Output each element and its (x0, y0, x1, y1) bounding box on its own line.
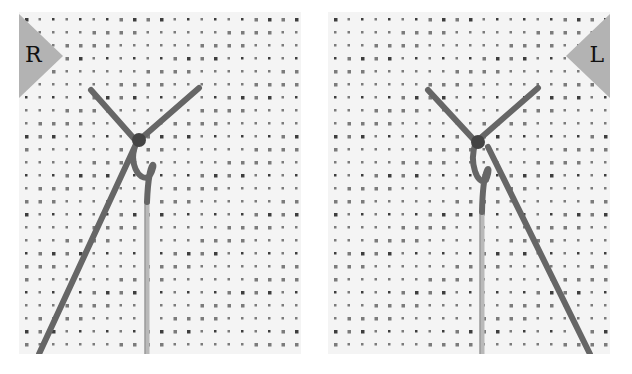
fabric-hole (375, 252, 379, 256)
fabric-hole (241, 31, 245, 35)
fabric-hole (442, 31, 446, 35)
fabric-hole (429, 252, 432, 255)
fabric-hole (187, 200, 191, 204)
left-hand-badge: L (566, 14, 610, 98)
fabric-hole (25, 213, 29, 217)
fabric-hole (591, 213, 595, 217)
fabric-hole (388, 291, 391, 294)
fabric-hole (79, 18, 82, 21)
fabric-hole (483, 96, 486, 99)
fabric-hole (295, 122, 298, 125)
fabric-hole (348, 83, 351, 86)
fabric-hole (241, 109, 245, 113)
fabric-hole (415, 200, 418, 203)
fabric-hole (537, 174, 541, 178)
fabric-hole (375, 317, 379, 321)
fabric-hole (106, 44, 110, 48)
fabric-hole (442, 18, 446, 22)
fabric-hole (469, 83, 473, 87)
fabric-hole (348, 109, 351, 112)
fabric-hole (402, 330, 405, 333)
fabric-hole (469, 330, 473, 334)
fabric-hole (469, 122, 472, 125)
fabric-hole (442, 239, 445, 242)
fabric-hole (160, 135, 164, 139)
fabric-hole (93, 109, 97, 113)
fabric-hole (106, 148, 109, 151)
fabric-hole (268, 135, 271, 138)
fabric-hole (201, 44, 205, 48)
fabric-hole (93, 278, 96, 281)
fabric-hole (160, 148, 164, 152)
fabric-hole (510, 278, 513, 281)
fabric-hole (25, 343, 29, 347)
fabric-hole (402, 109, 406, 113)
fabric-hole (469, 343, 473, 347)
fabric-hole (334, 317, 337, 320)
fabric-hole (282, 18, 286, 22)
fabric-hole (79, 148, 82, 151)
fabric-hole (510, 70, 513, 73)
fabric-hole (187, 135, 191, 139)
fabric-hole (79, 213, 82, 216)
fabric-hole (415, 70, 418, 73)
fabric-hole (214, 200, 217, 203)
fabric-hole (106, 317, 109, 320)
fabric-hole (79, 135, 82, 138)
fabric-hole (388, 343, 391, 346)
fabric-hole (201, 213, 204, 216)
fabric-hole (214, 304, 218, 308)
fabric-hole (388, 57, 392, 61)
fabric-hole (93, 174, 97, 178)
fabric-hole (483, 31, 486, 34)
fabric-hole (388, 122, 392, 126)
fabric-hole (66, 57, 70, 61)
fabric-hole (93, 343, 96, 346)
fabric-hole (187, 161, 190, 164)
fabric-hole (79, 70, 82, 73)
fabric-hole (429, 174, 432, 177)
fabric-hole (241, 96, 245, 100)
fabric-hole (550, 96, 554, 100)
fabric-hole (241, 70, 244, 73)
fabric-hole (201, 291, 204, 294)
fabric-hole (334, 291, 337, 294)
fabric-hole (241, 252, 244, 255)
fabric-hole (334, 96, 337, 99)
fabric-hole (160, 278, 164, 282)
fabric-hole (402, 252, 405, 255)
fabric-hole (295, 31, 298, 34)
fabric-hole (577, 343, 581, 347)
fabric-hole (255, 83, 259, 87)
fabric-hole (66, 96, 69, 99)
fabric-hole (120, 83, 124, 87)
fabric-hole (201, 96, 204, 99)
fabric-hole (66, 161, 69, 164)
fabric-hole (483, 122, 487, 126)
fabric-hole (268, 343, 272, 347)
fabric-hole (361, 96, 364, 99)
fabric-hole (52, 135, 56, 139)
fabric-hole (120, 291, 124, 295)
fabric-hole (106, 122, 109, 125)
fabric-hole (187, 343, 190, 346)
fabric-hole (334, 343, 338, 347)
fabric-hole (415, 317, 418, 320)
fabric-hole (415, 83, 418, 86)
fabric-hole (483, 148, 486, 151)
fabric-hole (295, 174, 298, 177)
thread (428, 88, 590, 354)
fabric-hole (523, 239, 527, 243)
fabric-hole (496, 57, 500, 61)
fabric-hole (174, 174, 177, 177)
fabric-hole (334, 226, 337, 229)
fabric-hole (348, 44, 351, 47)
fabric-hole (282, 213, 286, 217)
fabric-hole (268, 187, 271, 190)
fabric-hole (228, 226, 232, 230)
fabric-hole (442, 265, 445, 268)
fabric-hole (93, 135, 96, 138)
fabric-hole (160, 330, 164, 334)
fabric-hole (282, 187, 285, 190)
fabric-hole (388, 31, 391, 34)
